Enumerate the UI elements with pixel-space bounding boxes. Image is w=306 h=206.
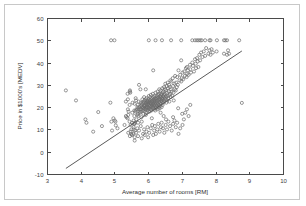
- data-point: [164, 118, 167, 121]
- y-axis-title: Price in $1000's [MEDV]: [16, 62, 23, 129]
- data-point: [215, 39, 218, 42]
- data-point: [124, 100, 127, 103]
- data-point: [146, 126, 149, 129]
- data-point: [64, 89, 67, 92]
- data-point: [136, 135, 139, 138]
- data-point: [85, 121, 88, 124]
- data-point: [222, 52, 225, 55]
- data-point: [128, 103, 131, 106]
- x-tick-label: 8: [215, 178, 219, 184]
- data-point: [159, 111, 162, 114]
- data-point: [153, 129, 156, 132]
- data-point: [74, 99, 77, 102]
- data-point: [126, 92, 129, 95]
- data-point: [185, 108, 188, 111]
- data-point: [204, 39, 207, 42]
- data-point: [205, 47, 208, 50]
- data-point: [189, 71, 192, 74]
- data-point: [182, 118, 185, 121]
- data-point: [139, 88, 142, 91]
- data-point: [113, 39, 116, 42]
- y-tick-label: 40: [37, 61, 44, 67]
- data-point: [192, 70, 195, 73]
- data-point: [204, 54, 207, 57]
- axes-layer: [48, 19, 284, 175]
- data-point: [191, 61, 194, 64]
- data-point: [154, 39, 157, 42]
- data-point: [123, 123, 126, 126]
- data-point: [116, 127, 119, 130]
- data-point: [170, 129, 173, 132]
- x-tick-label: 10: [280, 178, 287, 184]
- y-tick-label: -10: [35, 172, 44, 178]
- y-tick-label: 30: [37, 83, 44, 89]
- data-point: [160, 39, 163, 42]
- data-point: [165, 128, 168, 131]
- data-point: [152, 69, 155, 72]
- data-point: [133, 136, 136, 139]
- y-tick-label: 60: [37, 16, 44, 22]
- data-point: [238, 39, 241, 42]
- data-point: [158, 130, 161, 133]
- data-point: [137, 83, 140, 86]
- data-point: [139, 125, 142, 128]
- data-point: [172, 99, 175, 102]
- data-point: [173, 119, 176, 122]
- data-point: [140, 137, 143, 140]
- data-point: [109, 101, 112, 104]
- data-point: [176, 121, 179, 124]
- data-point: [202, 50, 205, 53]
- data-point: [100, 125, 103, 128]
- data-point: [180, 39, 183, 42]
- data-point: [187, 115, 190, 118]
- data-point: [177, 132, 180, 135]
- data-point: [177, 69, 180, 72]
- data-point: [153, 125, 156, 128]
- data-point: [172, 116, 175, 119]
- data-point: [179, 127, 182, 130]
- data-point: [150, 117, 153, 120]
- x-tick-label: 9: [248, 178, 252, 184]
- data-point: [148, 131, 151, 134]
- y-tick-label: 0: [40, 150, 44, 156]
- data-point: [211, 51, 214, 54]
- data-point: [157, 122, 160, 125]
- x-tick-label: 3: [46, 178, 50, 184]
- data-point: [170, 39, 173, 42]
- x-tick-label: 4: [80, 178, 84, 184]
- data-point: [181, 123, 184, 126]
- data-point: [132, 126, 135, 129]
- data-point: [169, 125, 172, 128]
- data-point: [84, 118, 87, 121]
- scatter-chart: 345678910-100102030405060 Average number…: [0, 0, 306, 206]
- data-point: [177, 107, 180, 110]
- data-point: [189, 103, 192, 106]
- data-point: [215, 50, 218, 53]
- data-point: [133, 115, 136, 118]
- data-point: [163, 131, 166, 134]
- y-tick-label: 50: [37, 38, 44, 44]
- data-point: [114, 124, 117, 127]
- data-point: [164, 123, 167, 126]
- data-point: [110, 39, 113, 42]
- data-point: [97, 111, 100, 114]
- data-point: [240, 101, 243, 104]
- data-point: [140, 120, 143, 123]
- data-point: [111, 129, 114, 132]
- x-axis-title: Average number of rooms [RM]: [122, 188, 208, 195]
- data-point: [191, 64, 194, 67]
- data-point: [174, 126, 177, 129]
- data-point: [160, 121, 163, 124]
- data-point: [227, 49, 230, 52]
- data-point: [144, 88, 147, 91]
- y-tick-label: 20: [37, 105, 44, 111]
- data-point: [184, 111, 187, 114]
- data-point: [137, 129, 140, 132]
- data-point: [181, 112, 184, 115]
- data-points-layer: [64, 39, 243, 142]
- data-point: [133, 139, 136, 142]
- chart-canvas: 345678910-100102030405060 Average number…: [0, 0, 306, 206]
- x-tick-label: 6: [147, 178, 151, 184]
- data-point: [154, 132, 157, 135]
- data-point: [92, 130, 95, 133]
